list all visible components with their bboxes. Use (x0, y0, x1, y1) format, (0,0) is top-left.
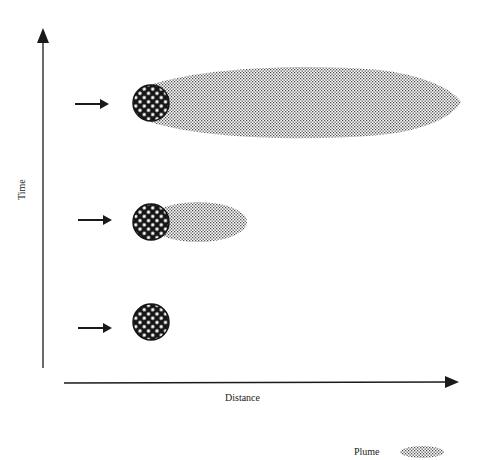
diagram-canvas (0, 0, 483, 460)
legend-plume-swatch-icon (400, 446, 444, 458)
axis-arrowhead-right-icon (445, 376, 459, 388)
row-middle (78, 202, 247, 242)
time-axis (37, 28, 49, 368)
flow-arrow-icon (78, 215, 112, 225)
legend-plume-label: Plume (354, 446, 380, 457)
distance-axis-label: Distance (225, 392, 260, 403)
source-circle-icon (133, 85, 169, 121)
distance-axis (64, 376, 459, 388)
row-late (75, 67, 461, 138)
flow-arrow-icon (75, 99, 109, 109)
flow-arrow-icon (78, 323, 112, 333)
time-axis-label: Time (16, 179, 27, 200)
row-early (78, 304, 169, 340)
plume-long (150, 67, 461, 138)
source-circle-icon (133, 304, 169, 340)
source-circle-icon (133, 204, 169, 240)
axis-arrowhead-up-icon (37, 28, 49, 43)
